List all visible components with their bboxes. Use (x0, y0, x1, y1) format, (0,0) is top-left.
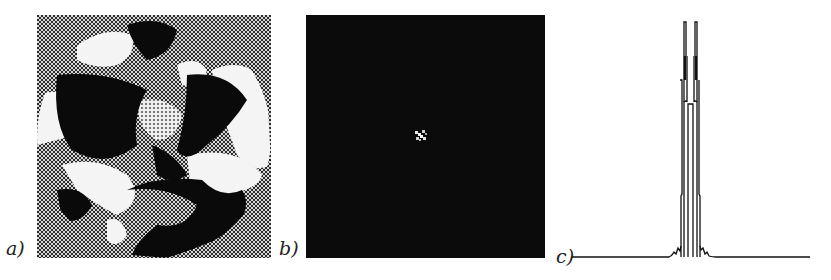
panel-b-label: b) (279, 239, 299, 258)
profile-baseline-left (572, 246, 681, 257)
panel-c-intensity-profile (560, 0, 831, 280)
panel-a-label: a) (6, 239, 25, 258)
figure: a) (0, 0, 831, 280)
profile-baseline-right (700, 246, 810, 257)
panel-a-phase-pattern (37, 15, 271, 258)
panel-b-diffraction-pattern (306, 15, 545, 258)
central-bright-spot (413, 128, 429, 144)
